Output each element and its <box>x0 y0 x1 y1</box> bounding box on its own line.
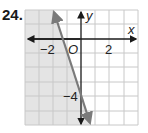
x-tick-label-neg2: −2 <box>40 42 55 57</box>
x-axis-label: x <box>127 22 135 37</box>
y-tick-label-neg4: −4 <box>63 89 78 104</box>
graph: x y O −2 2 −4 <box>0 0 148 133</box>
origin-label: O <box>68 42 78 57</box>
x-tick-label-2: 2 <box>105 42 112 57</box>
